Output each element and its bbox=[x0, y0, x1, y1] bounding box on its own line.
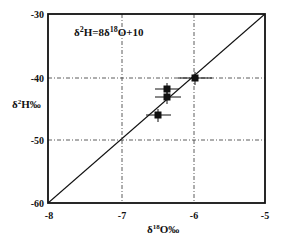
y-axis: -30 -40 -50 -60 δ2H‰ bbox=[12, 9, 44, 209]
y-tick-label: -50 bbox=[31, 135, 44, 146]
chart: -30 -40 -50 -60 δ2H‰ -8 -7 -6 -5 δ18O‰ δ… bbox=[0, 0, 281, 239]
y-tick-label: -60 bbox=[31, 198, 44, 209]
data-point-4 bbox=[146, 109, 171, 122]
meteoric-water-line bbox=[48, 14, 265, 203]
equation-annotation: δ2H=8δ18O+10 bbox=[74, 25, 144, 38]
y-tick-label: -40 bbox=[31, 73, 44, 84]
x-axis: -8 -7 -6 -5 δ18O‰ bbox=[45, 210, 269, 235]
x-tick-label: -6 bbox=[190, 210, 198, 221]
plot-area bbox=[48, 14, 265, 203]
x-tick-label: -8 bbox=[45, 210, 53, 221]
x-tick-label: -7 bbox=[118, 210, 126, 221]
x-axis-label: δ18O‰ bbox=[147, 223, 179, 235]
data-points bbox=[146, 72, 212, 122]
x-tick-label: -5 bbox=[261, 210, 269, 221]
data-point-1 bbox=[178, 72, 212, 85]
y-axis-label: δ2H‰ bbox=[12, 98, 41, 110]
y-tick-label: -30 bbox=[31, 9, 44, 20]
data-point-3 bbox=[155, 91, 181, 104]
